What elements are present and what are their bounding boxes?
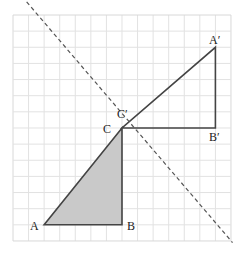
transformation-diagram: A B C C′ A′ B′ bbox=[0, 0, 243, 254]
label-c-prime: C′ bbox=[117, 107, 128, 121]
label-c: C bbox=[103, 122, 111, 136]
label-b: B bbox=[127, 219, 135, 233]
label-a-prime: A′ bbox=[209, 33, 221, 47]
label-a: A bbox=[30, 219, 39, 233]
label-b-prime: B′ bbox=[209, 130, 220, 144]
